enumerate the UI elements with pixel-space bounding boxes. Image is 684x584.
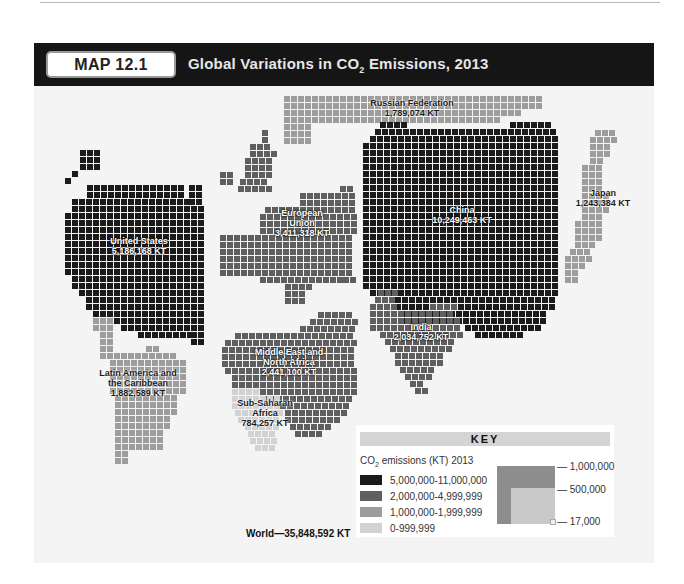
map-cell <box>333 117 339 123</box>
map-cell <box>454 192 460 198</box>
map-cell <box>391 269 397 275</box>
map-cell <box>135 227 141 233</box>
map-cell <box>284 124 290 130</box>
map-cell <box>184 213 190 219</box>
map-cell <box>489 262 495 268</box>
map-cell <box>257 151 263 157</box>
map-cell <box>496 178 502 184</box>
map-cell <box>538 143 544 149</box>
map-cell <box>472 297 478 303</box>
map-cell <box>391 171 397 177</box>
map-cell <box>552 227 558 233</box>
map-cell <box>384 311 390 317</box>
map-cell <box>433 227 439 233</box>
map-cell <box>317 319 323 325</box>
map-cell <box>535 325 541 331</box>
map-cell <box>486 297 492 303</box>
map-cell <box>340 186 346 192</box>
map-cell <box>529 103 535 109</box>
map-cell <box>482 157 488 163</box>
map-cell <box>86 227 92 233</box>
map-cell <box>248 235 254 241</box>
map-cell <box>545 178 551 184</box>
map-cell <box>565 263 571 269</box>
map-cell <box>361 103 367 109</box>
map-cell <box>86 234 92 240</box>
map-cell <box>412 241 418 247</box>
map-cell <box>482 248 488 254</box>
region-name-line2: the Caribbean <box>99 378 177 388</box>
map-cell <box>375 297 381 303</box>
map-cell <box>94 185 100 191</box>
map-cell <box>340 110 346 116</box>
map-cell <box>248 263 254 269</box>
map-cell <box>135 353 141 359</box>
map-cell <box>440 164 446 170</box>
map-cell <box>377 150 383 156</box>
map-cell <box>248 242 254 248</box>
map-cell <box>100 206 106 212</box>
map-cell <box>609 130 615 136</box>
map-cell <box>521 297 527 303</box>
map-cell <box>377 318 383 324</box>
scale-label-500k: — 500,000 <box>557 484 606 495</box>
map-cell <box>236 354 242 360</box>
map-cell <box>517 136 523 142</box>
map-cell <box>552 171 558 177</box>
map-cell <box>412 255 418 261</box>
map-cell <box>318 396 324 402</box>
map-cell <box>479 325 485 331</box>
label-india: India 2,034,752 KT <box>394 322 449 342</box>
map-cell <box>191 269 197 275</box>
map-cell <box>421 367 427 373</box>
map-cell <box>370 262 376 268</box>
map-cell <box>487 103 493 109</box>
map-cell <box>327 410 333 416</box>
map-cell <box>262 445 268 451</box>
map-cell <box>107 339 113 345</box>
map-cell <box>524 157 530 163</box>
map-cell <box>545 227 551 233</box>
map-cell <box>335 326 341 332</box>
map-cell <box>314 326 320 332</box>
map-cell <box>65 262 71 268</box>
map-cell <box>384 185 390 191</box>
map-cell <box>391 185 397 191</box>
map-cell <box>377 311 383 317</box>
map-cell <box>447 150 453 156</box>
map-cell <box>517 150 523 156</box>
map-cell <box>501 96 507 102</box>
map-cell <box>222 361 228 367</box>
map-cell <box>191 262 197 268</box>
map-cell <box>433 311 439 317</box>
map-cell <box>177 220 183 226</box>
map-cell <box>447 171 453 177</box>
map-cell <box>129 437 135 443</box>
map-cell <box>391 192 397 198</box>
map-cell <box>582 221 588 227</box>
map-cell <box>173 360 179 366</box>
map-cell <box>100 255 106 261</box>
map-cell <box>496 157 502 163</box>
map-cell <box>236 347 242 353</box>
map-cell <box>468 269 474 275</box>
map-cell <box>468 241 474 247</box>
map-cell <box>426 374 432 380</box>
map-cell <box>288 382 294 388</box>
map-cell <box>314 200 320 206</box>
map-cell <box>129 185 135 191</box>
map-cell <box>246 389 252 395</box>
map-cell <box>377 276 383 282</box>
map-cell <box>461 143 467 149</box>
map-cell <box>482 332 488 338</box>
map-cell <box>377 283 383 289</box>
map-cell <box>269 263 275 269</box>
map-cell <box>370 199 376 205</box>
map-cell <box>267 228 273 234</box>
map-cell <box>370 234 376 240</box>
map-cell <box>419 206 425 212</box>
map-cell <box>447 157 453 163</box>
map-cell <box>285 284 291 290</box>
map-cell <box>100 290 106 296</box>
map-cell <box>301 403 307 409</box>
